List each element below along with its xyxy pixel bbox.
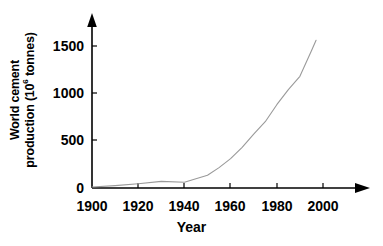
up-arrow-icon — [87, 13, 97, 27]
data-line-world-cement-production — [92, 40, 316, 187]
chart-plot-svg — [0, 0, 383, 246]
chart-figure: World cement production (106 tonnes) 150… — [0, 0, 383, 246]
right-arrow-icon — [355, 183, 370, 193]
